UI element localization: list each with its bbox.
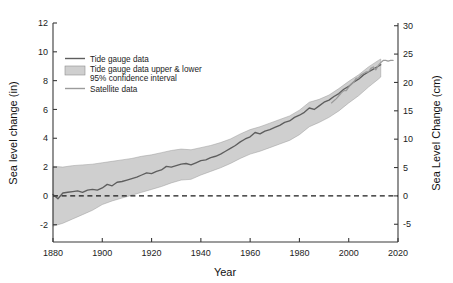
x-tick-label: 1940 — [191, 248, 211, 258]
left-tick-label: 0 — [43, 191, 48, 201]
right-tick-label: 25 — [403, 49, 413, 59]
x-tick-label: 1900 — [92, 248, 112, 258]
y-axis-label-right: Sea Level Change (cm) — [430, 75, 442, 191]
right-tick-label: 30 — [403, 21, 413, 31]
sea-level-chart-figure: -2024681012 -5051015202530 1880190019201… — [0, 0, 453, 283]
x-tick-label: 2020 — [388, 248, 408, 258]
chart-legend: Tide gauge data Tide gauge data upper & … — [65, 55, 202, 94]
right-tick-label: 15 — [403, 106, 413, 116]
right-tick-label: 10 — [403, 134, 413, 144]
legend-swatch-confidence-interval — [65, 66, 85, 75]
right-tick-label: -5 — [403, 219, 411, 229]
x-tick-label: 1960 — [240, 248, 260, 258]
left-tick-label: 4 — [43, 133, 48, 143]
left-tick-label: 8 — [43, 76, 48, 86]
legend-label-ci-line2: 95% confidence interval — [90, 74, 177, 83]
left-tick-label: 6 — [43, 105, 48, 115]
x-tick-label: 2000 — [339, 248, 359, 258]
x-axis-label: Year — [214, 266, 237, 278]
bottom-axis-ticks: 18801900192019401960198020002020 — [43, 238, 408, 258]
x-tick-label: 1920 — [142, 248, 162, 258]
x-tick-label: 1980 — [289, 248, 309, 258]
y-axis-label-left: Sea level change (in) — [7, 81, 19, 184]
left-tick-label: -2 — [40, 220, 48, 230]
left-tick-label: 2 — [43, 162, 48, 172]
legend-label-satellite: Satellite data — [90, 85, 138, 94]
right-tick-label: 5 — [403, 163, 408, 173]
right-tick-label: 0 — [403, 191, 408, 201]
chart-svg: -2024681012 -5051015202530 1880190019201… — [0, 0, 453, 283]
left-tick-label: 10 — [38, 47, 48, 57]
right-axis-ticks: -5051015202530 — [394, 21, 413, 230]
right-tick-label: 20 — [403, 78, 413, 88]
legend-label-tide-gauge: Tide gauge data — [90, 55, 149, 64]
x-tick-label: 1880 — [43, 248, 63, 258]
left-tick-label: 12 — [38, 18, 48, 28]
